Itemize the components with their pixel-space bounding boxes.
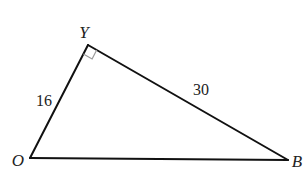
- vertex-label-o: O: [12, 151, 24, 170]
- side-label-yb: 30: [193, 81, 209, 98]
- right-triangle-diagram: Y O B 16 30: [0, 0, 305, 176]
- vertex-label-y: Y: [79, 23, 90, 42]
- side-yb: [88, 45, 288, 160]
- side-ob: [30, 158, 288, 160]
- vertex-label-b: B: [292, 152, 303, 171]
- side-label-oy: 16: [36, 92, 52, 109]
